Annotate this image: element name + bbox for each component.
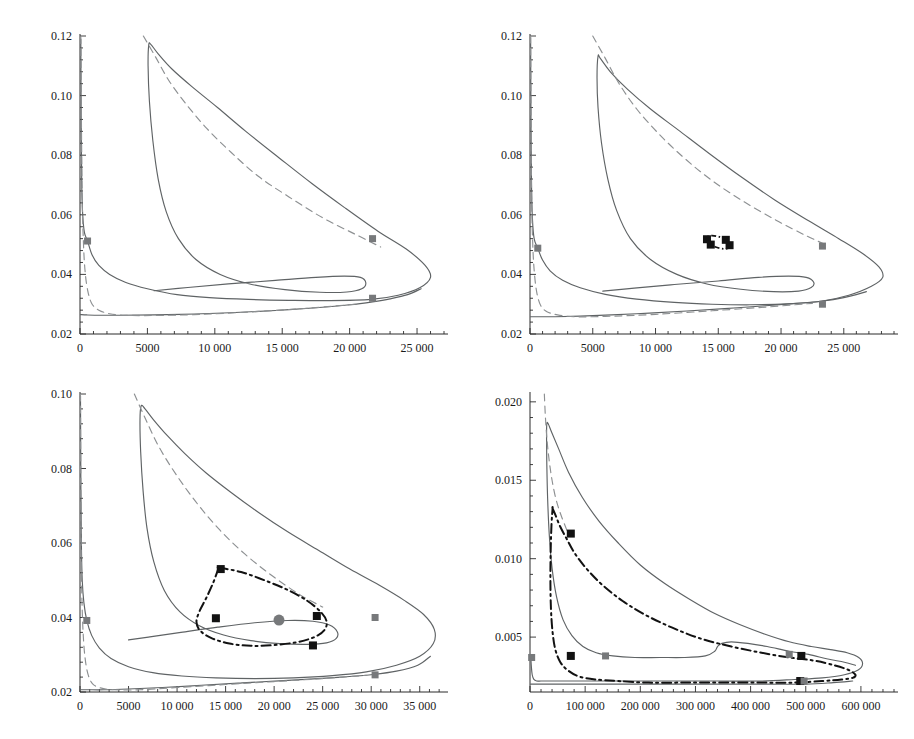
y-tick-label: 0.06: [51, 536, 72, 550]
panel-top-right-series: [531, 36, 884, 317]
x-tick-label: 15 000: [702, 341, 735, 355]
x-tick-label: 20 000: [333, 341, 366, 355]
x-tick-label: 35 000: [403, 699, 436, 713]
y-tick-label: 0.06: [51, 208, 72, 222]
panel-top-left-series: [81, 36, 431, 316]
limit-cycle-marker: [797, 652, 805, 660]
y-tick-label: 0.08: [51, 148, 72, 162]
panel-bottom-right: 0100 000200 000300 000400 000500 000600 …: [468, 380, 908, 732]
panel-bottom-left: 0500010 00015 00020 00025 00030 00035 00…: [18, 380, 458, 732]
data-point-marker: [819, 243, 826, 250]
y-tick-label: 0.010: [495, 552, 522, 566]
data-point-marker: [528, 654, 535, 661]
x-tick-label: 15 000: [266, 341, 299, 355]
panel-top-left-markers: [84, 235, 376, 302]
x-tick-label: 0: [77, 699, 83, 713]
y-tick-label: 0.10: [51, 89, 72, 103]
panel-top-left-tick-labels: 0500010 00015 00020 00025 0000.020.040.0…: [51, 29, 434, 355]
x-tick-label: 5000: [117, 699, 141, 713]
limit-cycle-marker: [313, 612, 321, 620]
limit-cycle-marker: [309, 641, 317, 649]
panel-bottom-left-limit-cycle: [196, 565, 326, 649]
y-tick-label: 0.10: [501, 89, 522, 103]
y-tick-label: 0.08: [51, 462, 72, 476]
panel-bottom-left-svg: 0500010 00015 00020 00025 00030 00035 00…: [18, 380, 458, 732]
data-point-marker: [372, 671, 379, 678]
x-tick-label: 5000: [581, 341, 605, 355]
data-point-marker: [801, 678, 808, 685]
panel-top-left: 0500010 00015 00020 00025 0000.020.040.0…: [18, 22, 458, 374]
limit-cycle-marker: [212, 614, 220, 622]
x-tick-label: 400 000: [731, 699, 770, 713]
equilibrium-marker: [273, 615, 284, 626]
x-tick-label: 10 000: [161, 699, 194, 713]
curve-upper-asymptote-dashed: [143, 36, 380, 247]
x-tick-label: 600 000: [841, 699, 880, 713]
limit-cycle-marker: [722, 236, 730, 244]
data-point-marker: [84, 238, 91, 245]
data-point-marker: [602, 652, 609, 659]
curve-lower-branch-solid: [81, 289, 422, 316]
x-tick-label: 30 000: [355, 699, 388, 713]
y-tick-label: 0.04: [501, 267, 522, 281]
panel-bottom-right-axes: [530, 392, 898, 692]
y-tick-label: 0.10: [51, 387, 72, 401]
x-tick-label: 0: [527, 341, 533, 355]
limit-cycle-marker: [567, 652, 575, 660]
x-tick-label: 100 000: [566, 699, 605, 713]
x-tick-label: 25 000: [827, 341, 860, 355]
panel-bottom-left-markers: [83, 614, 378, 678]
y-tick-label: 0.12: [51, 29, 72, 43]
curve-asymptote-dashed: [531, 36, 813, 317]
panel-top-right-svg: 0500010 00015 00020 00025 0000.020.040.0…: [468, 22, 908, 374]
data-point-marker: [372, 614, 379, 621]
y-tick-label: 0.02: [51, 327, 72, 341]
x-tick-label: 15 000: [209, 699, 242, 713]
curve-upper-asymptote-dashed: [134, 394, 322, 607]
x-tick-label: 20 000: [258, 699, 291, 713]
y-tick-label: 0.04: [51, 611, 72, 625]
curve-outer-orbit-solid: [80, 396, 435, 679]
x-tick-label: 0: [77, 341, 83, 355]
y-tick-label: 0.015: [495, 473, 522, 487]
curve-upper-asymptote-dashed: [593, 36, 829, 246]
data-point-marker: [534, 245, 541, 252]
panel-bottom-left-tick-labels: 0500010 00015 00020 00025 00030 00035 00…: [51, 387, 436, 713]
curve-asymptote-dashed: [80, 394, 366, 690]
panel-top-right-tick-labels: 0500010 00015 00020 00025 0000.020.040.0…: [501, 29, 860, 355]
data-point-marker: [819, 301, 826, 308]
x-tick-label: 300 000: [676, 699, 715, 713]
y-tick-label: 0.020: [495, 395, 522, 409]
limit-cycle-marker: [217, 565, 225, 573]
panel-top-right: 0500010 00015 00020 00025 0000.020.040.0…: [468, 22, 908, 374]
x-tick-label: 25 000: [306, 699, 339, 713]
x-tick-label: 500 000: [786, 699, 825, 713]
y-tick-label: 0.02: [51, 685, 72, 699]
panel-bottom-right-series: [531, 394, 863, 684]
y-tick-label: 0.06: [501, 208, 522, 222]
panel-top-left-svg: 0500010 00015 00020 00025 0000.020.040.0…: [18, 22, 458, 374]
limit-cycle-path: [196, 566, 326, 646]
panel-top-right-limit-cycle: [703, 233, 734, 252]
panel-bottom-right-tick-labels: 0100 000200 000300 000400 000500 000600 …: [495, 395, 880, 713]
y-tick-label: 0.02: [501, 327, 522, 341]
figure-canvas: 0500010 00015 00020 00025 0000.020.040.0…: [0, 0, 914, 739]
y-tick-label: 0.005: [495, 630, 522, 644]
data-point-marker: [369, 235, 376, 242]
x-tick-label: 10 000: [639, 341, 672, 355]
y-tick-label: 0.12: [501, 29, 522, 43]
data-point-marker: [83, 617, 90, 624]
x-tick-label: 20 000: [765, 341, 798, 355]
x-tick-label: 25 000: [401, 341, 434, 355]
panel-top-left-axes: [80, 34, 448, 334]
panel-bottom-right-svg: 0100 000200 000300 000400 000500 000600 …: [468, 380, 908, 732]
curve-outer-orbit-solid: [81, 39, 431, 301]
panel-bottom-left-axes: [80, 392, 448, 692]
curve-outer-orbit-solid: [531, 37, 883, 304]
limit-cycle-marker: [567, 530, 575, 538]
y-tick-label: 0.08: [501, 148, 522, 162]
data-point-marker: [369, 295, 376, 302]
limit-cycle-marker: [707, 241, 715, 249]
y-tick-label: 0.04: [51, 267, 72, 281]
x-tick-label: 200 000: [621, 699, 660, 713]
